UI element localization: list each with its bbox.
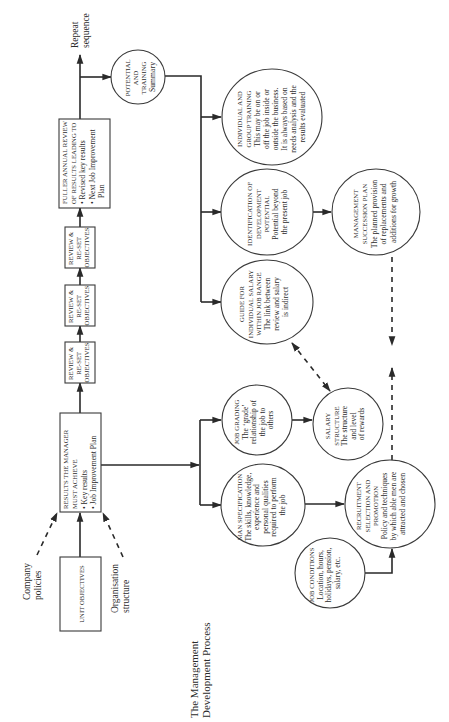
svg-text:UNIT OBJECTIVES: UNIT OBJECTIVES xyxy=(78,565,85,623)
results-title-2: MUST ACHIEVE xyxy=(71,459,78,509)
succession-line-5: additions for growth xyxy=(389,181,398,243)
succession-line-1: MANAGEMENT xyxy=(352,190,359,239)
grading-line-1: JOB GRADING xyxy=(233,399,240,444)
repeat-line-2: sequence xyxy=(81,13,91,48)
training-line-2: GROUP TRAINING xyxy=(245,90,252,147)
fuller-line-1: FULLER ANNUAL REVIEW xyxy=(61,120,68,204)
succession-line-4: of replacements and xyxy=(379,183,388,244)
review-box-3: REVIEW & RE-SET OBJECTIVES xyxy=(65,342,95,383)
arrow-conditions-to-recruitment xyxy=(365,549,392,573)
training-line-5: outside the business. xyxy=(271,88,280,151)
training-line-4: off the job inside or xyxy=(262,89,271,149)
salary-structure-circle: SALARY STRUCTURE The structure and level… xyxy=(313,388,383,460)
review-1-line-1: REVIEW & xyxy=(67,231,74,265)
repeat-line-1: Repeat xyxy=(70,21,80,48)
salary-line-5: of rewards xyxy=(357,408,366,440)
job-conditions-circle: JOB CONDITIONS Location, hours, holidays… xyxy=(295,538,365,608)
recruitment-line-3: PROMOTION xyxy=(372,486,379,526)
conditions-line-1: JOB CONDITIONS xyxy=(308,547,315,602)
unit-objectives-box: UNIT OBJECTIVES xyxy=(60,557,101,631)
potential-line-2: AND xyxy=(132,70,139,85)
guide-line-3: WITHIN JOB RANGE xyxy=(255,272,262,336)
potential-training-circle: POTENTIAL AND TRAINING Summary xyxy=(111,50,165,104)
svg-text:INDIVIDUAL AND GROUP TRA: INDIVIDUAL AND GROUP TRAINING This may b… xyxy=(228,81,307,153)
potential-line-3: TRAINING xyxy=(140,61,147,94)
organisation-structure-line-2: structure xyxy=(121,580,131,613)
secondary-trunk xyxy=(165,76,201,302)
conditions-line-4: salary, etc. xyxy=(333,557,342,589)
grading-line-5: others xyxy=(266,411,275,430)
guide-line-4: The link between xyxy=(263,277,272,330)
results-title-1: RESULTS THE MANAGER xyxy=(62,429,69,509)
svg-text:POTENTIAL AND TRAI: POTENTIAL AND TRAINING Summary xyxy=(124,58,157,97)
training-line-3: This may be on or xyxy=(253,91,262,147)
title-line-1: The Management xyxy=(188,641,200,718)
training-line-6: It is always based on xyxy=(280,87,289,150)
review-1-line-2: RE-SET xyxy=(75,237,82,260)
review-box-1: REVIEW & RE-SET OBJECTIVES xyxy=(65,227,95,268)
training-line-8: results evaluated xyxy=(298,91,307,142)
identification-line-5: the present job xyxy=(280,189,289,234)
fuller-annual-review-box: FULLER ANNUAL REVIEW OF RESULTS LEADING … xyxy=(53,117,110,208)
fuller-line-3: • Revised key results xyxy=(78,140,87,204)
guide-line-6: is indirect xyxy=(281,286,290,317)
management-development-diagram: UNIT OBJECTIVES RESULTS THE MANAGER MUST… xyxy=(0,0,449,722)
fuller-line-4: • Next Job Improvement xyxy=(88,129,97,204)
job-grading-circle: JOB GRADING The ‘grade’ relationship of … xyxy=(222,385,292,455)
identification-line-4: Potential beyond xyxy=(271,188,280,239)
manspec-line-1: MAN SPECIFICATION xyxy=(236,474,243,541)
fuller-line-5: Plan xyxy=(97,184,106,198)
recruitment-line-5: by which able men are xyxy=(389,471,398,540)
man-specification-circle: MAN SPECIFICATION The skills, knowledge,… xyxy=(221,464,305,546)
salary-line-1: SALARY xyxy=(324,413,331,440)
succession-line-2: SUCCESSION PLAN xyxy=(361,184,368,245)
unit-objectives-label: UNIT OBJECTIVES xyxy=(78,565,85,623)
guide-line-5: review and salary xyxy=(272,277,281,331)
review-1-line-3: OBJECTIVES xyxy=(83,227,90,267)
results-bullet-1: • Key results xyxy=(80,470,89,509)
identification-line-2: DEVELOPMENT xyxy=(255,189,262,239)
recruitment-circle: RECRUITMENT SELECTION AND PROMOTION Poli… xyxy=(345,460,435,548)
results-box: RESULTS THE MANAGER MUST ACHIEVE • Key r… xyxy=(54,413,101,512)
repeat-sequence-label: Repeat sequence xyxy=(70,13,91,48)
review-3-line-2: RE-SET xyxy=(75,352,82,375)
identification-line-3: POTENTIAL xyxy=(263,195,270,232)
training-line-7: needs analysis and the xyxy=(289,85,298,153)
results-bullet-2: • Job Improvement Plan xyxy=(89,435,98,509)
recruitment-line-6: attracted and chosen xyxy=(398,473,407,535)
fuller-line-2: OF RESULTS LEADING TO xyxy=(70,123,77,204)
title-line-2: Development Process xyxy=(200,622,212,718)
salary-line-2: STRUCTURE xyxy=(333,406,340,445)
identification-line-1: IDENTIFICATION OF xyxy=(246,182,253,246)
svg-text:MANAGEMENT SUCCESSION PL: MANAGEMENT SUCCESSION PLAN The planned p… xyxy=(344,176,398,248)
identification-potential-circle: IDENTIFICATION OF DEVELOPMENT POTENTIAL … xyxy=(221,169,313,255)
review-3-line-3: OBJECTIVES xyxy=(83,342,90,382)
review-2-line-1: REVIEW & xyxy=(67,289,74,323)
guide-line-1: GUIDE FOR xyxy=(238,286,245,322)
guide-salary-circle: GUIDE FOR INDIVIDUAL SALARY WITHIN JOB R… xyxy=(221,260,313,344)
diagram-title: The Management Development Process xyxy=(188,622,212,718)
organisation-structure-label: Organisation structure xyxy=(110,562,131,613)
recruitment-line-1: RECRUITMENT xyxy=(355,482,362,530)
dashed-guide-salary xyxy=(292,343,330,391)
dashed-organisation-structure xyxy=(103,513,123,557)
succession-line-3: The planned provision xyxy=(370,180,379,249)
organisation-structure-line-1: Organisation xyxy=(110,564,120,613)
company-policies-line-1: Company xyxy=(22,563,32,600)
guide-line-2: INDIVIDUAL SALARY xyxy=(247,270,254,338)
dashed-company-policies xyxy=(37,513,57,555)
review-2-line-3: OBJECTIVES xyxy=(83,285,90,325)
training-line-1: INDIVIDUAL AND xyxy=(236,91,243,147)
succession-plan-circle: MANAGEMENT SUCCESSION PLAN The planned p… xyxy=(332,169,420,255)
manspec-line-6: the job xyxy=(278,494,287,515)
review-2-line-2: RE-SET xyxy=(75,295,82,318)
recruitment-line-4: Policy and techniques xyxy=(380,473,389,540)
company-policies-line-2: policies xyxy=(33,570,43,600)
company-policies-label: Company policies xyxy=(22,561,43,600)
individual-training-circle: INDIVIDUAL AND GROUP TRAINING This may b… xyxy=(222,69,322,165)
review-3-line-1: REVIEW & xyxy=(67,346,74,380)
potential-line-1: POTENTIAL xyxy=(124,59,131,96)
review-box-2: REVIEW & RE-SET OBJECTIVES xyxy=(65,285,95,326)
recruitment-line-2: SELECTION AND xyxy=(364,479,371,532)
potential-line-4: Summary xyxy=(148,62,157,92)
